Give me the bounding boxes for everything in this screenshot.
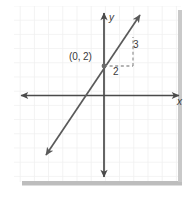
grid-background <box>14 6 181 182</box>
graph-figure: (0, 2) 2 3 y x <box>0 0 196 199</box>
y-intercept-point <box>102 64 107 69</box>
bottom-shadow-bar <box>22 181 182 186</box>
coordinate-plane-svg <box>0 0 196 199</box>
